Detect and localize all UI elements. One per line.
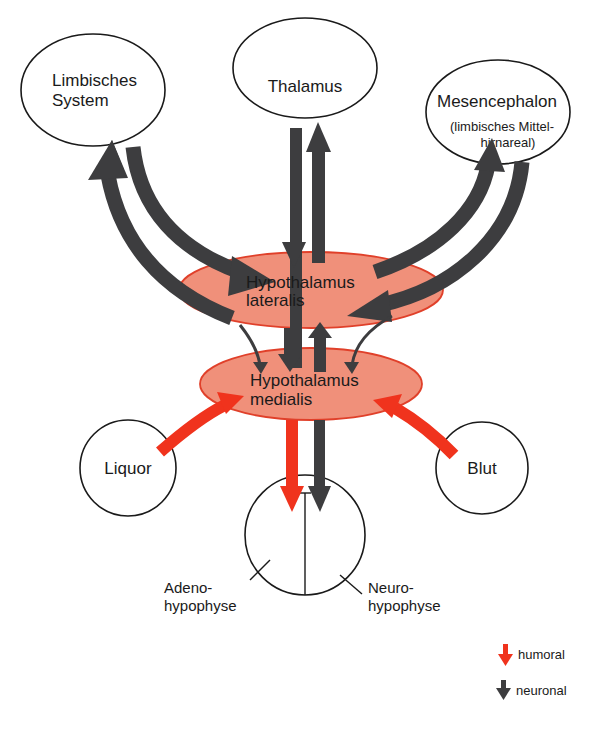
arrow-lateralis-to-thalamus bbox=[306, 122, 331, 263]
node-hypophyse bbox=[245, 475, 365, 595]
node-limbic-system: Limbisches System bbox=[21, 34, 165, 146]
limbic-label-line1: Limbisches bbox=[52, 71, 137, 90]
medialis-label-line1: Hypothalamus bbox=[250, 371, 359, 390]
neuro-pointer bbox=[340, 575, 362, 594]
arrow-liquor-to-medialis bbox=[160, 392, 244, 452]
mesencephalon-label-line2: (limbisches Mittel- bbox=[450, 119, 554, 134]
node-liquor: Liquor bbox=[80, 420, 176, 516]
thalamus-label: Thalamus bbox=[268, 77, 343, 96]
humoral-arrowhead-icon bbox=[498, 654, 513, 666]
arrow-blut-to-medialis bbox=[373, 394, 454, 455]
neuro-label-line1: Neuro- bbox=[368, 579, 414, 596]
legend-neuronal: neuronal bbox=[496, 680, 567, 700]
node-blut: Blut bbox=[436, 422, 528, 514]
legend: humoral neuronal bbox=[496, 644, 567, 700]
legend-humoral: humoral bbox=[498, 644, 565, 666]
liquor-label: Liquor bbox=[104, 459, 152, 478]
adeno-label-line2: hypophyse bbox=[164, 597, 237, 614]
medialis-label-line2: medialis bbox=[250, 390, 312, 409]
mesencephalon-label-line1: Mesencephalon bbox=[437, 92, 557, 111]
adeno-label-line1: Adeno- bbox=[164, 579, 212, 596]
blut-label: Blut bbox=[467, 459, 497, 478]
legend-humoral-label: humoral bbox=[518, 647, 565, 662]
limbic-label-line2: System bbox=[52, 91, 109, 110]
lateralis-label-line1: Hypothalamus bbox=[246, 273, 355, 292]
node-thalamus: Thalamus bbox=[233, 18, 377, 118]
node-mesencephalon: Mesencephalon (limbisches Mittel- hirnar… bbox=[426, 60, 570, 164]
legend-neuronal-label: neuronal bbox=[516, 683, 567, 698]
lateralis-label-line2: lateralis bbox=[246, 291, 305, 310]
hypothalamus-diagram: Limbisches System Thalamus Mesencephalon… bbox=[0, 0, 608, 729]
neuronal-arrowhead-icon bbox=[496, 688, 511, 700]
neuro-label-line2: hypophyse bbox=[368, 597, 441, 614]
